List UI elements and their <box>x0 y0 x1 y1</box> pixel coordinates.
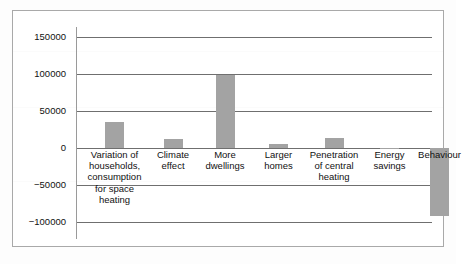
bar <box>216 75 235 148</box>
ytick-label-0: 0 <box>6 143 66 153</box>
ytick-label-minus-50000: −50000 <box>6 180 66 190</box>
ytick-label-50000: 50000 <box>6 106 66 116</box>
bar <box>164 139 183 148</box>
gridline-50000 <box>77 111 432 112</box>
bar <box>105 122 124 148</box>
y-axis-line <box>76 27 77 239</box>
category-label: Behaviour <box>412 149 466 160</box>
category-label: Energy savings <box>367 149 412 171</box>
category-label: Penetration of central heating <box>301 149 367 183</box>
gridline-100000 <box>77 74 432 75</box>
ytick-label-100000: 100000 <box>6 69 66 79</box>
category-axis-labels: Variation of households, consumption for… <box>77 149 435 205</box>
category-label: Climate effect <box>152 149 194 171</box>
category-label: More dwellings <box>194 149 256 171</box>
plot-area: 150000 100000 50000 0 −50000 −100000 Var… <box>13 11 443 246</box>
gridline-minus-100000 <box>77 222 432 223</box>
category-label: Larger homes <box>256 149 301 171</box>
ytick-label-150000: 150000 <box>6 32 66 42</box>
bar <box>325 138 344 148</box>
ytick-label-minus-100000: −100000 <box>6 217 66 227</box>
category-label: Variation of households, consumption for… <box>77 149 152 205</box>
gridline-150000 <box>77 37 432 38</box>
bar <box>269 144 288 148</box>
chart-frame: 150000 100000 50000 0 −50000 −100000 Var… <box>12 10 444 247</box>
